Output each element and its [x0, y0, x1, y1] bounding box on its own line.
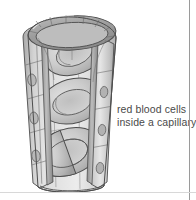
caption-line-2: inside a capillary [117, 116, 195, 129]
figure-root: red blood cells inside a capillary [0, 0, 196, 200]
capillary-diagram [0, 0, 196, 200]
caption-line-1: red blood cells [117, 103, 195, 116]
frame-bottom-border [0, 192, 196, 193]
frame-right-border [189, 0, 190, 200]
figure-caption: red blood cells inside a capillary [117, 103, 195, 129]
